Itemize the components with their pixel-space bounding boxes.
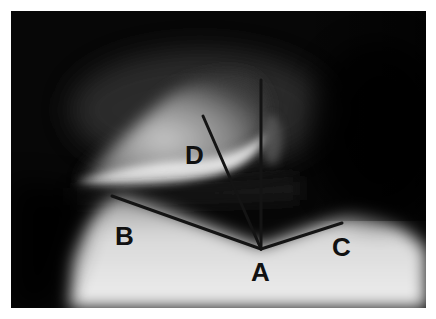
label-d: D (185, 142, 204, 168)
label-a: A (251, 259, 270, 285)
label-b: B (115, 223, 134, 249)
label-c: C (332, 234, 351, 260)
radiograph-drawing (11, 11, 426, 308)
radiograph-image (11, 11, 426, 308)
